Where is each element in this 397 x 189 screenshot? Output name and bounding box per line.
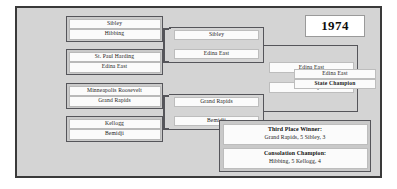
team-slot: Hibbing <box>69 29 161 40</box>
quarterfinal-matchup-4[interactable]: Kellogg Bemidji <box>66 116 163 142</box>
team-slot: Kellogg <box>69 119 161 130</box>
bracket-poster: 1974 Sibley Hibbing St. Paul Harding Edi… <box>0 0 397 189</box>
consolation-award: Consolation Champion: Hibbing, 5 Kellogg… <box>223 148 368 169</box>
team-slot: Minneapolis Roosevelt <box>69 86 161 97</box>
quarterfinal-matchup-3[interactable]: Minneapolis Roosevelt Grand Rapids <box>66 83 163 109</box>
award-title: Third Place Winner: <box>268 127 322 133</box>
bracket-connector-vertical <box>163 95 165 128</box>
team-slot: St. Paul Harding <box>69 52 161 63</box>
round2-winner-plate-3: Grand Rapids <box>174 97 259 107</box>
state-champion-label: State Champion <box>294 79 376 89</box>
round2-winner-plate-2: Edina East <box>174 49 259 59</box>
third-place-award: Third Place Winner: Grand Rapids, 5 Sibl… <box>223 124 368 145</box>
award-score: Hibbing, 5 Kellogg, 4 <box>269 159 321 165</box>
team-slot: Grand Rapids <box>69 96 161 107</box>
team-slot: Bemidji <box>69 129 161 140</box>
bracket-frame: 1974 Sibley Hibbing St. Paul Harding Edi… <box>15 6 382 178</box>
bracket-connector-vertical <box>163 28 165 61</box>
awards-panel: Third Place Winner: Grand Rapids, 5 Sibl… <box>219 120 371 172</box>
round2-winner-plate-1: Sibley <box>174 30 259 40</box>
team-slot: Edina East <box>69 62 161 73</box>
award-title: Consolation Champion: <box>264 151 326 157</box>
team-slot: Sibley <box>69 19 161 30</box>
award-score: Grand Rapids, 5 Sibley, 3 <box>265 135 326 141</box>
quarterfinal-matchup-2[interactable]: St. Paul Harding Edina East <box>66 49 163 75</box>
quarterfinal-matchup-1[interactable]: Sibley Hibbing <box>66 16 163 42</box>
state-champion-plate: Edina East <box>294 69 376 79</box>
page-title-year: 1974 <box>305 15 365 37</box>
